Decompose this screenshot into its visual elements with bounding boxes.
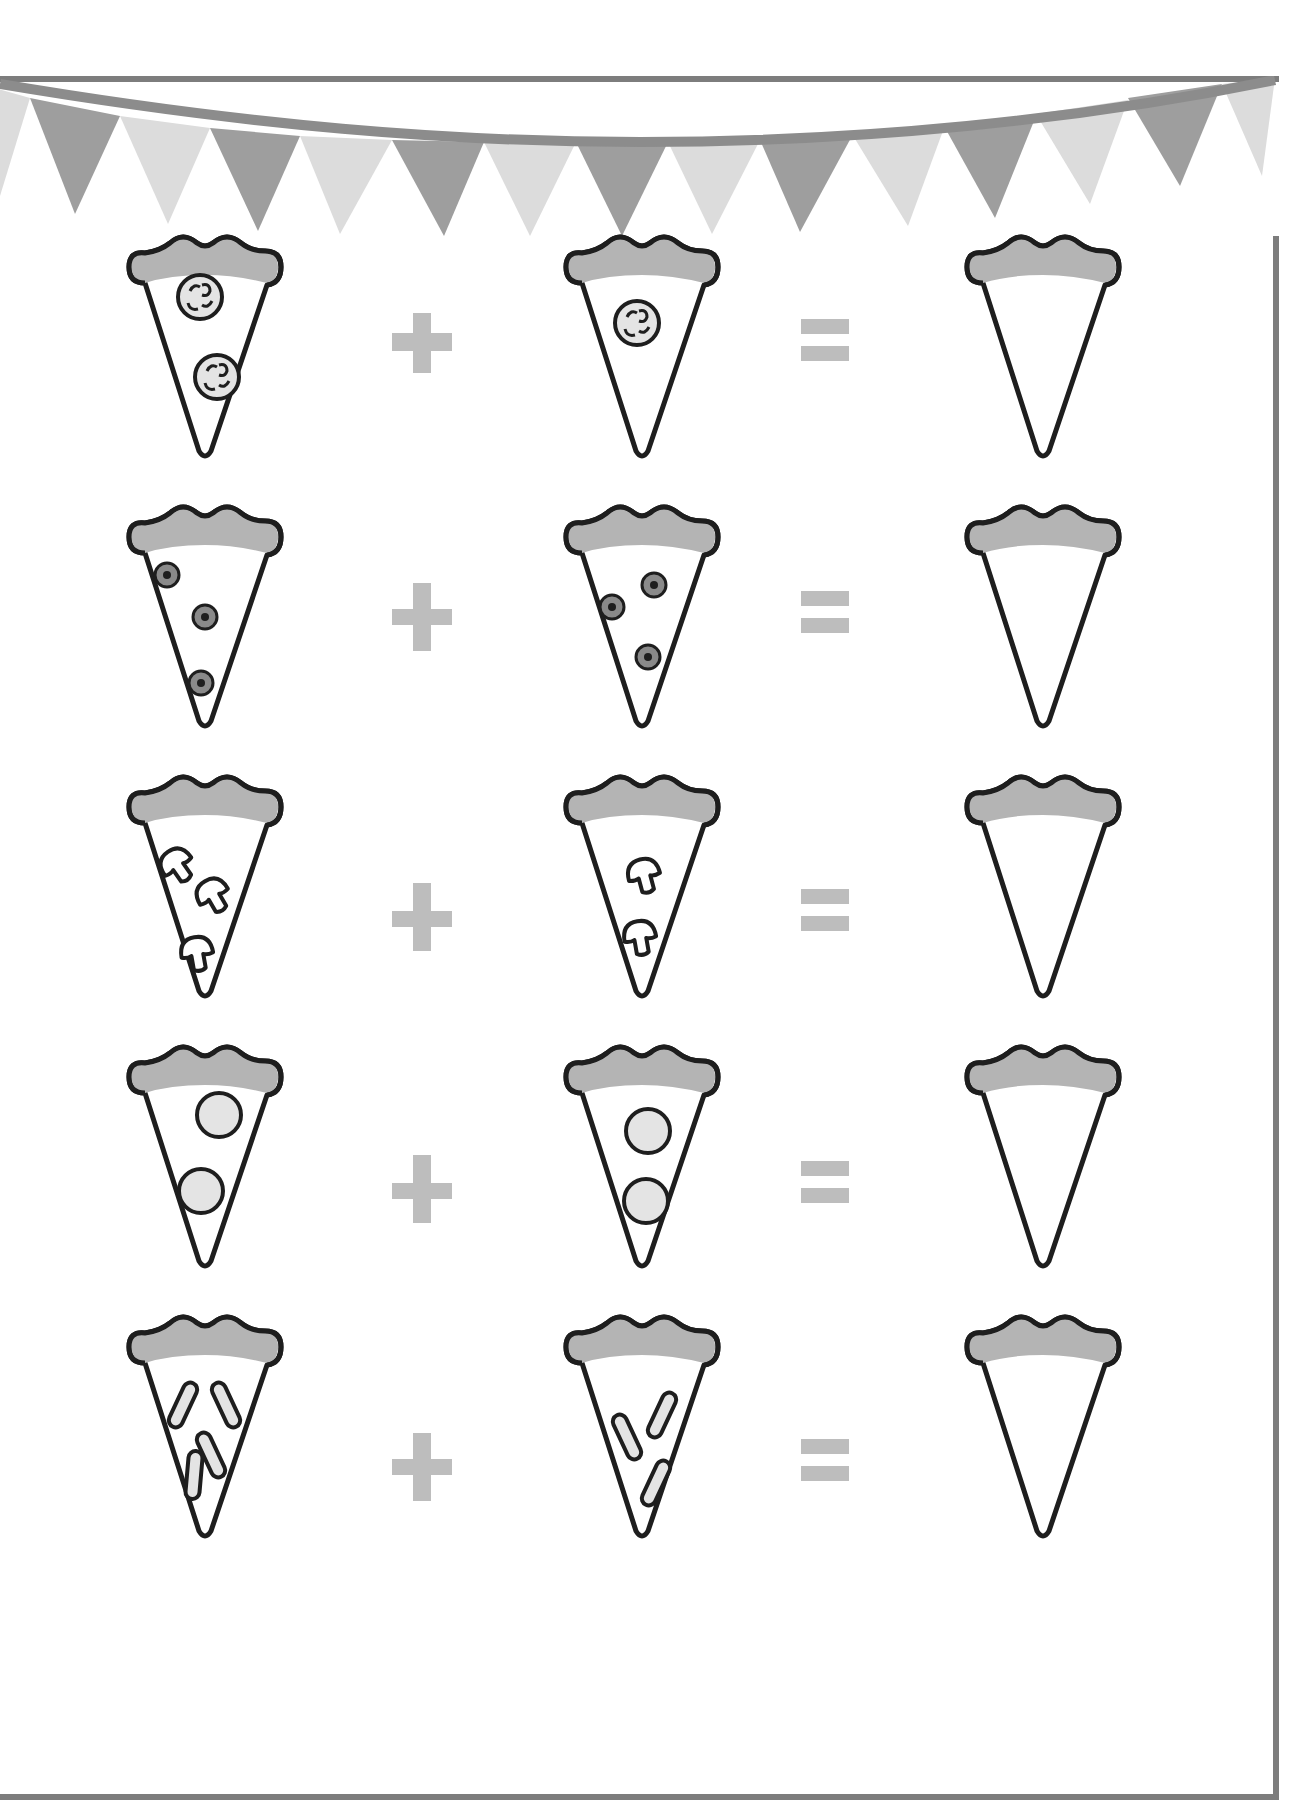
pizza-slice-pepper-strip-icon (115, 1305, 295, 1545)
pizza-slice-olive-icon (115, 495, 295, 735)
equals-icon (801, 889, 849, 931)
plus-icon (392, 1155, 452, 1223)
plus-icon (392, 583, 452, 651)
equals-icon (801, 1161, 849, 1203)
pizza-slice-olive-icon (552, 495, 732, 735)
bunting-flag-icon (392, 140, 484, 236)
equals-icon (801, 591, 849, 633)
bunting-flag-icon (300, 136, 392, 234)
bunting-flag-icon (120, 116, 210, 224)
answer-slice-empty[interactable] (953, 225, 1133, 465)
equation-row-2 (0, 495, 1279, 735)
pizza-slice-mushroom-icon (552, 765, 732, 1005)
bunting-flag-icon (760, 136, 852, 232)
bunting-flag-icon (668, 140, 760, 234)
equation-row-4 (0, 1035, 1279, 1275)
pizza-slice-salami-icon (115, 1035, 295, 1275)
bunting-flag-icon (484, 142, 576, 236)
frame-top-border (0, 76, 1279, 82)
pizza-slice-salami-icon (552, 1035, 732, 1275)
plus-icon (392, 883, 452, 951)
equals-icon (801, 1439, 849, 1481)
pizza-slice-pepper-strip-icon (552, 1305, 732, 1545)
equation-row-5 (0, 1305, 1279, 1545)
answer-slice-empty[interactable] (953, 1305, 1133, 1545)
bunting-flag-icon (30, 98, 120, 214)
equation-row-3 (0, 765, 1279, 1005)
equation-row-1 (0, 225, 1279, 465)
pizza-slice-mushroom-icon (115, 765, 295, 1005)
bunting-banner-full (0, 76, 1279, 236)
plus-icon (392, 313, 452, 373)
bunting-flag-icon (210, 128, 300, 231)
bunting-flag-icon (576, 142, 668, 236)
equals-icon (801, 319, 849, 361)
pizza-slice-tomato-icon (115, 225, 295, 465)
answer-slice-empty[interactable] (953, 765, 1133, 1005)
plus-icon (392, 1433, 452, 1501)
bunting-flag-icon (852, 128, 944, 226)
answer-slice-empty[interactable] (953, 1035, 1133, 1275)
pizza-slice-tomato-icon (552, 225, 732, 465)
answer-slice-empty[interactable] (953, 495, 1133, 735)
frame-bottom-border (0, 1794, 1279, 1800)
bunting-flag-icon (0, 84, 30, 196)
bunting-flags (0, 78, 1275, 236)
